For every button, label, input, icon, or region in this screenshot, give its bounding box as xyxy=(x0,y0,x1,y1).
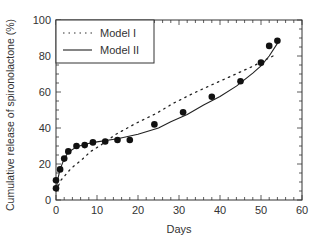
data-point xyxy=(274,37,281,44)
x-tick-label: 50 xyxy=(255,204,267,216)
y-tick-label: 60 xyxy=(39,86,51,98)
data-point xyxy=(151,121,158,128)
data-point xyxy=(53,177,60,184)
x-tick-label: 20 xyxy=(132,204,144,216)
model-ii-curve xyxy=(56,43,277,191)
data-point xyxy=(81,142,88,149)
y-tick-label: 20 xyxy=(39,158,51,170)
x-tick-label: 10 xyxy=(91,204,103,216)
data-point xyxy=(90,139,97,146)
x-tick-label: 0 xyxy=(53,204,59,216)
data-point xyxy=(237,78,244,85)
x-tick-label: 60 xyxy=(296,204,308,216)
data-point xyxy=(102,138,109,145)
y-tick-label: 100 xyxy=(33,14,51,26)
model-i-curve xyxy=(56,54,277,191)
data-point xyxy=(53,185,60,192)
legend-label-model-ii: Model II xyxy=(100,44,139,56)
data-point xyxy=(61,155,68,162)
data-point xyxy=(127,137,134,144)
data-point xyxy=(114,137,121,144)
data-point xyxy=(209,93,216,100)
chart: 0102030405060020406080100 Model I Model … xyxy=(0,0,323,239)
data-point xyxy=(258,59,265,66)
data-point xyxy=(266,43,273,50)
x-tick-label: 40 xyxy=(214,204,226,216)
x-tick-label: 30 xyxy=(173,204,185,216)
data-point xyxy=(57,166,64,173)
data-point xyxy=(73,143,80,150)
y-tick-label: 80 xyxy=(39,50,51,62)
legend: Model I Model II xyxy=(56,20,154,63)
y-tick-label: 40 xyxy=(39,122,51,134)
data-point xyxy=(180,109,187,116)
data-point xyxy=(65,148,72,155)
legend-label-model-i: Model I xyxy=(100,27,136,39)
y-axis-label: Cumulative release of spironolactone (%) xyxy=(4,19,16,211)
x-axis-label: Days xyxy=(166,223,192,235)
y-tick-label: 0 xyxy=(45,194,51,206)
